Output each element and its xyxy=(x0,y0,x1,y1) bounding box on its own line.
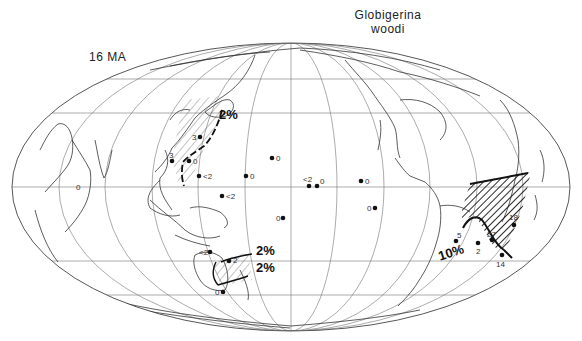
site-label: 3 xyxy=(192,133,196,142)
site-label: 5 xyxy=(457,231,461,240)
site-label: 0 xyxy=(193,157,197,166)
indian-ocean-label: 0 xyxy=(76,183,80,192)
species-title: Globigerina woodi xyxy=(338,8,438,36)
site-label: 2 xyxy=(233,256,237,265)
site-label: 0 xyxy=(276,154,280,163)
contour-label-sw-pacific-upper: 2% xyxy=(256,244,275,257)
site-label: 0 xyxy=(250,172,254,181)
species-epithet: woodi xyxy=(338,22,438,36)
species-genus: Globigerina xyxy=(338,8,438,22)
coastlines xyxy=(35,48,544,328)
site-label: <2 xyxy=(203,172,212,181)
contour-label-sw-pacific-lower: 2% xyxy=(256,261,275,274)
site-label: 14 xyxy=(496,260,505,269)
site-label: 2 xyxy=(476,247,480,256)
site-label: <2 xyxy=(226,192,235,201)
world-map xyxy=(0,0,582,341)
site-label: <2 xyxy=(199,248,208,257)
nw-pacific-region xyxy=(172,96,222,182)
site-label: 0 xyxy=(320,177,324,186)
site-label: 0 xyxy=(276,214,280,223)
site-label: 0 xyxy=(367,204,371,213)
contour-label-nw-pacific: 2% xyxy=(219,108,238,121)
age-label: 16 MA xyxy=(89,50,126,64)
site-label: 3 xyxy=(169,151,173,160)
site-label: 18 xyxy=(509,213,518,222)
site-label: 27 xyxy=(487,230,496,239)
site-label: <2 xyxy=(303,175,312,184)
site-label: 0 xyxy=(215,288,219,297)
site-label: 0 xyxy=(365,177,369,186)
